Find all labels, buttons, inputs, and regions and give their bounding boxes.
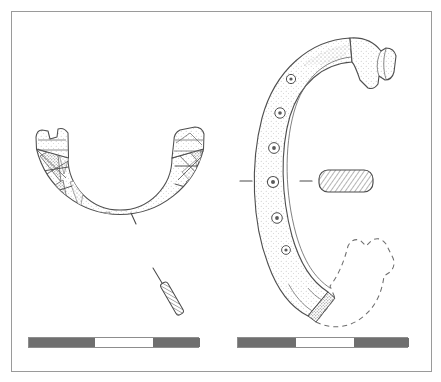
scale-bar-plan — [28, 337, 199, 348]
section-profile-small — [160, 281, 185, 316]
drawing-canvas — [0, 0, 441, 382]
section-leader-plan — [153, 268, 162, 283]
reconstruction-outline — [316, 239, 394, 327]
plan-view — [36, 127, 204, 316]
profile-terminal-upper — [350, 38, 396, 89]
profile-view — [240, 38, 396, 327]
section-line-plan — [131, 213, 136, 224]
scale-segment-dark-1 — [29, 338, 95, 347]
scale-segment-dark-2 — [354, 338, 409, 347]
scale-bar-profile — [237, 337, 408, 348]
cross-section-rectangle — [319, 170, 373, 192]
figure-root: Decorated penannular bracelet — plan and… — [0, 0, 441, 382]
scale-segment-light-1 — [296, 338, 354, 347]
scale-segment-dark-2 — [153, 338, 200, 347]
scale-segment-dark-1 — [238, 338, 296, 347]
scale-segment-light-1 — [95, 338, 153, 347]
